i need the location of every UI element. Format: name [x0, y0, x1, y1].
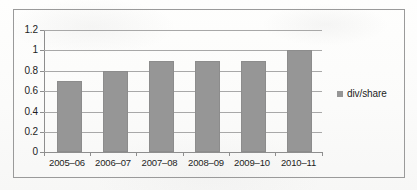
bar-2010-11[interactable]	[287, 50, 312, 152]
x-tick-6	[322, 152, 323, 156]
x-tick-1	[90, 152, 91, 156]
x-axis-label-2005-06: 2005–06	[44, 157, 90, 169]
y-axis-label-1: 1	[0, 45, 38, 55]
y-axis-label-0.8: 0.8	[0, 66, 38, 76]
y-axis-label-group: 1.2 1 0.8 0.6 0.4 0.2 0	[0, 0, 38, 190]
chart-legend: div/share	[337, 88, 387, 100]
gridline-1.2	[44, 30, 322, 31]
gridline-1	[44, 50, 322, 51]
x-axis-label-2009-10: 2009–10	[229, 157, 275, 169]
plot-area	[44, 30, 322, 152]
x-axis-label-2006-07: 2006–07	[90, 157, 136, 169]
y-axis-label-1.2: 1.2	[0, 25, 38, 35]
x-axis-label-group: 2005–06 2006–07 2007–08 2008–09 2009–10 …	[44, 157, 323, 171]
bar-2008-09[interactable]	[195, 61, 220, 153]
legend-swatch-icon	[337, 91, 343, 97]
x-tick-5	[275, 152, 276, 156]
x-tick-2	[136, 152, 137, 156]
gridline-0.6	[44, 91, 322, 92]
gridline-0.2	[44, 132, 322, 133]
gridline-0.4	[44, 112, 322, 113]
y-axis-label-0.6: 0.6	[0, 86, 38, 96]
bar-2006-07[interactable]	[103, 71, 128, 152]
y-axis-label-0.2: 0.2	[0, 127, 38, 137]
x-axis-label-2010-11: 2010–11	[275, 157, 322, 169]
bar-2007-08[interactable]	[149, 61, 174, 153]
bar-2009-10[interactable]	[241, 61, 266, 153]
y-axis-label-0.4: 0.4	[0, 107, 38, 117]
legend-item-div-share: div/share	[347, 89, 387, 99]
y-axis-label-0: 0	[0, 147, 38, 157]
x-tick-0	[44, 152, 45, 156]
x-axis-label-2007-08: 2007–08	[136, 157, 183, 169]
x-tick-4	[229, 152, 230, 156]
chart-screenshot: 1.2 1 0.8 0.6 0.4 0.2 0 2005–06	[0, 0, 417, 190]
bar-2005-06[interactable]	[57, 81, 82, 152]
x-axis-label-2008-09: 2008–09	[183, 157, 229, 169]
gridline-0.8	[44, 71, 322, 72]
x-tick-3	[183, 152, 184, 156]
